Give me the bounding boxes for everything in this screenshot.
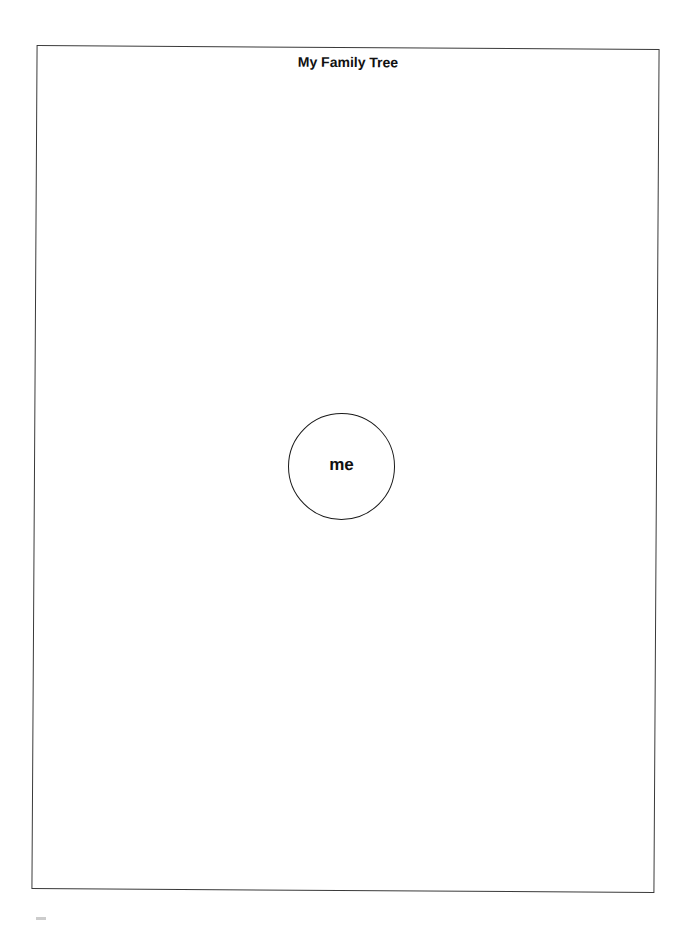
scan-mark [36, 917, 46, 920]
worksheet-frame: My Family Tree me [31, 45, 659, 893]
worksheet-title: My Family Tree [37, 52, 658, 72]
me-node-label: me [329, 455, 354, 475]
me-node-circle: me [288, 413, 396, 521]
